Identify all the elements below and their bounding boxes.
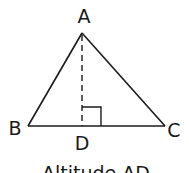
vertex-label-a: A xyxy=(78,5,91,27)
triangle-abc xyxy=(28,33,165,126)
triangle-diagram: A B C D Altitude AD xyxy=(0,0,189,173)
side-ab xyxy=(28,33,82,126)
caption: Altitude AD xyxy=(42,162,150,173)
vertex-label-d: D xyxy=(75,132,90,154)
side-ac xyxy=(82,33,165,126)
vertex-label-b: B xyxy=(8,117,21,139)
vertex-label-c: C xyxy=(167,119,180,141)
right-angle-marker xyxy=(82,107,101,126)
